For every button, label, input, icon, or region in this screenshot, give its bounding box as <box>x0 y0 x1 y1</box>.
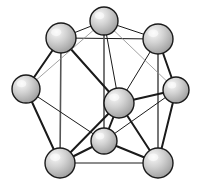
atom-highlight <box>95 12 105 19</box>
atom-highlight <box>148 29 158 37</box>
molecular-structure-figure <box>0 0 200 187</box>
atom-bottom-left[interactable] <box>45 148 75 178</box>
atom-bottom-right[interactable] <box>143 148 173 178</box>
atom-highlight <box>109 93 119 101</box>
atom-right[interactable] <box>163 77 189 103</box>
atom-highlight <box>95 133 104 140</box>
atom-center[interactable] <box>104 88 134 118</box>
atom-bottom-center[interactable] <box>91 128 117 154</box>
atom-highlight <box>50 153 60 161</box>
atom-highlight <box>17 80 27 87</box>
atom-left[interactable] <box>12 75 40 103</box>
structure-canvas <box>0 0 200 187</box>
atom-highlight <box>148 153 158 161</box>
atom-highlight <box>51 28 61 36</box>
atom-top-right[interactable] <box>143 24 173 54</box>
atom-top-left[interactable] <box>46 23 76 53</box>
atom-highlight <box>167 82 176 89</box>
atom-top-apex[interactable] <box>90 7 118 35</box>
bond-top-left-to-bottom-left <box>60 38 61 163</box>
